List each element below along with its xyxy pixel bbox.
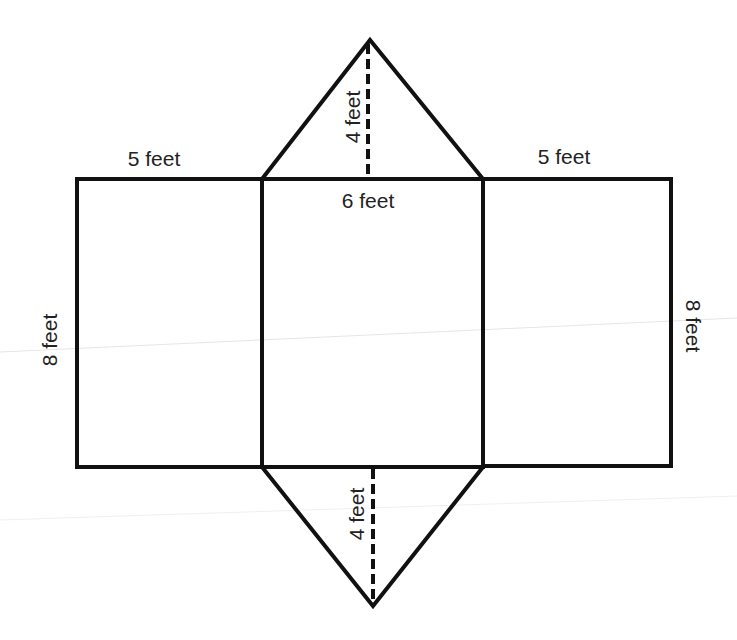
label-left-height: 8 feet (38, 314, 61, 367)
scan-artifact-line (0, 318, 737, 352)
middle-rectangle (262, 179, 483, 467)
prism-net-diagram: 5 feet 5 feet 6 feet 8 feet 8 feet 4 fee… (0, 0, 737, 640)
left-rectangle (77, 179, 262, 467)
scan-artifact-line (0, 496, 737, 520)
label-bottom-triangle-height: 4 feet (345, 488, 368, 541)
label-middle-width: 6 feet (342, 189, 395, 212)
top-triangle (262, 40, 483, 179)
label-right-height: 8 feet (682, 300, 705, 353)
label-left-width: 5 feet (128, 147, 181, 170)
label-top-triangle-height: 4 feet (341, 91, 364, 144)
label-right-width: 5 feet (538, 145, 591, 168)
